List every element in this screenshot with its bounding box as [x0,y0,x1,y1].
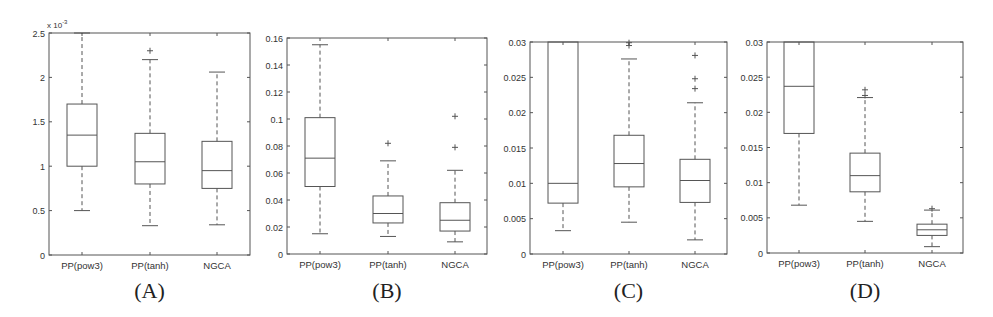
x-category-label: PP(tanh) [846,258,884,269]
outlier-marker [452,144,458,150]
x-category-label: PP(pow3) [299,259,341,270]
box-pppow3 [784,42,814,205]
y-tick-label: 0.04 [265,196,283,206]
x-category-label: PP(pow3) [778,258,820,269]
panel-c: 00.0050.010.0150.020.0250.03PP(pow3)PP(t… [503,38,727,304]
y-tick-label: 0 [278,250,283,260]
box-pppow3 [67,33,97,211]
box-pptanh [614,40,644,222]
box-ngca [440,113,470,242]
panel-label: (C) [614,278,643,303]
y-tick-label: 2 [40,73,45,83]
y-tick-label: 0.005 [740,213,763,223]
y-tick-label: 0.06 [265,169,283,179]
y-tick-label: 0.025 [740,73,763,83]
y-tick-label: 0.03 [508,38,526,48]
y-tick-label: 2.5 [32,29,45,39]
panel-a: 00.511.522.5x 10-3PP(pow3)PP(tanh)NGCA(A… [32,19,250,303]
y-tick-label: 0.14 [265,61,283,71]
outlier-marker [385,140,391,146]
x-category-label: NGCA [681,259,709,270]
y-tick-label: 0.08 [265,142,283,152]
x-category-label: PP(tanh) [369,259,407,270]
iqr-box [202,141,232,188]
y-tick-label: 0.1 [270,115,283,125]
y-tick-label: 0 [521,250,526,260]
outlier-marker [692,86,698,92]
box-pptanh [135,48,165,226]
box-pptanh [850,87,880,222]
x-category-label: PP(pow3) [542,259,584,270]
panel-label: (A) [134,278,165,303]
x-category-label: PP(tanh) [131,260,169,271]
y-tick-label: 0 [758,249,763,259]
panel-b: 00.020.040.060.080.10.120.140.16PP(pow3)… [265,34,487,304]
y-tick-label: 0.5 [32,206,45,216]
axes-frame [287,38,487,254]
y-tick-label: 0.005 [503,214,526,224]
outlier-marker [692,76,698,82]
y-tick-label: 0.02 [508,108,526,118]
x-category-label: NGCA [203,260,231,271]
outlier-marker [862,87,868,93]
y-tick-label: 0.12 [265,88,283,98]
box-pppow3 [305,45,335,234]
outlier-marker [452,113,458,119]
y-tick-label: 0.16 [265,34,283,44]
outlier-marker [692,52,698,58]
panel-label: (D) [850,278,881,303]
panels-container: 00.511.522.5x 10-3PP(pow3)PP(tanh)NGCA(A… [32,19,963,303]
box-ngca [680,52,710,239]
iqr-box [305,118,335,187]
y-tick-label: 0 [40,251,45,261]
outlier-marker [929,206,935,212]
x-category-label: NGCA [441,259,469,270]
y-tick-label: 0.025 [503,73,526,83]
y-tick-label: 0.03 [745,38,763,48]
iqr-box [440,203,470,231]
boxplot-figure: 00.511.522.5x 10-3PP(pow3)PP(tanh)NGCA(A… [0,0,993,317]
y-tick-label: 0.015 [740,143,763,153]
box-pppow3 [548,42,578,231]
y-tick-label: 0.01 [508,179,526,189]
box-ngca [202,72,232,225]
iqr-box [614,135,644,187]
box-ngca [917,206,947,247]
box-pptanh [373,140,403,236]
iqr-box [548,42,578,203]
iqr-box [850,153,880,192]
y-tick-label: 0.02 [745,108,763,118]
y-tick-label: 0.01 [745,178,763,188]
panel-d: 00.0050.010.0150.020.0250.03PP(pow3)PP(t… [740,38,963,304]
x-category-label: NGCA [918,258,946,269]
x-category-label: PP(tanh) [610,259,648,270]
outlier-marker [147,48,153,54]
y-tick-label: 1.5 [32,117,45,127]
y-exponent-label: x 10-3 [47,19,68,30]
y-tick-label: 1 [40,162,45,172]
iqr-box [784,42,814,133]
iqr-box [135,133,165,184]
y-tick-label: 0.015 [503,144,526,154]
panel-label: (B) [372,278,401,303]
iqr-box [373,196,403,223]
y-tick-label: 0.02 [265,223,283,233]
x-category-label: PP(pow3) [61,260,103,271]
